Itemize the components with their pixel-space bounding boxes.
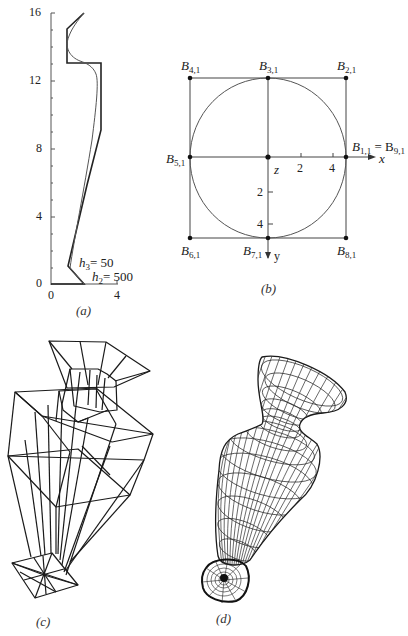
caption-d: (d) bbox=[216, 611, 231, 627]
vase-base bbox=[202, 559, 249, 603]
panel-d-mesh bbox=[0, 0, 408, 636]
